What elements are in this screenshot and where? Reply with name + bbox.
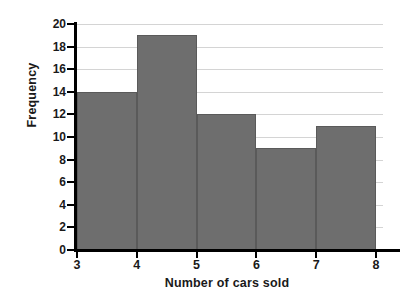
y-tick-mark-16 (67, 68, 75, 70)
y-tick-label-18: 18 (20, 41, 66, 53)
y-tick-label-6: 6 (20, 176, 66, 188)
x-tick-mark-6 (255, 250, 257, 258)
histogram-chart: Frequency 02468101214161820 345678 Numbe… (0, 0, 411, 308)
y-tick-mark-10 (67, 136, 75, 138)
y-tick-mark-14 (67, 91, 75, 93)
x-tick-label-3: 3 (62, 258, 92, 272)
x-tick-label-8: 8 (361, 258, 391, 272)
y-tick-label-16: 16 (20, 63, 66, 75)
y-axis-tick-labels: 02468101214161820 (14, 0, 66, 308)
bar-7-8 (316, 126, 376, 250)
bar-6-7 (256, 148, 316, 250)
y-tick-mark-2 (67, 226, 75, 228)
x-tick-mark-5 (196, 250, 198, 258)
y-tick-mark-0 (67, 249, 75, 251)
x-tick-mark-4 (136, 250, 138, 258)
bars-layer (77, 24, 376, 250)
plot-area (77, 24, 383, 250)
x-tick-label-5: 5 (182, 258, 212, 272)
bar-3-4 (77, 92, 137, 250)
x-tick-label-6: 6 (241, 258, 271, 272)
y-tick-label-10: 10 (20, 131, 66, 143)
y-tick-label-20: 20 (20, 18, 66, 30)
y-tick-mark-12 (67, 113, 75, 115)
y-tick-label-14: 14 (20, 86, 66, 98)
x-axis-title: Number of cars sold (77, 276, 377, 290)
y-tick-mark-6 (67, 181, 75, 183)
y-tick-label-8: 8 (20, 154, 66, 166)
bar-4-5 (137, 35, 197, 250)
x-tick-mark-7 (315, 250, 317, 258)
y-tick-mark-8 (67, 159, 75, 161)
y-tick-mark-18 (67, 46, 75, 48)
x-tick-mark-3 (76, 250, 78, 258)
x-tick-label-7: 7 (301, 258, 331, 272)
y-tick-label-2: 2 (20, 221, 66, 233)
y-tick-label-12: 12 (20, 108, 66, 120)
x-axis-line (74, 249, 400, 252)
x-tick-label-4: 4 (122, 258, 152, 272)
y-tick-label-4: 4 (20, 199, 66, 211)
y-tick-mark-20 (67, 23, 75, 25)
y-tick-label-0: 0 (20, 244, 66, 256)
bar-5-6 (197, 114, 257, 250)
y-tick-mark-4 (67, 204, 75, 206)
x-tick-mark-8 (375, 250, 377, 258)
